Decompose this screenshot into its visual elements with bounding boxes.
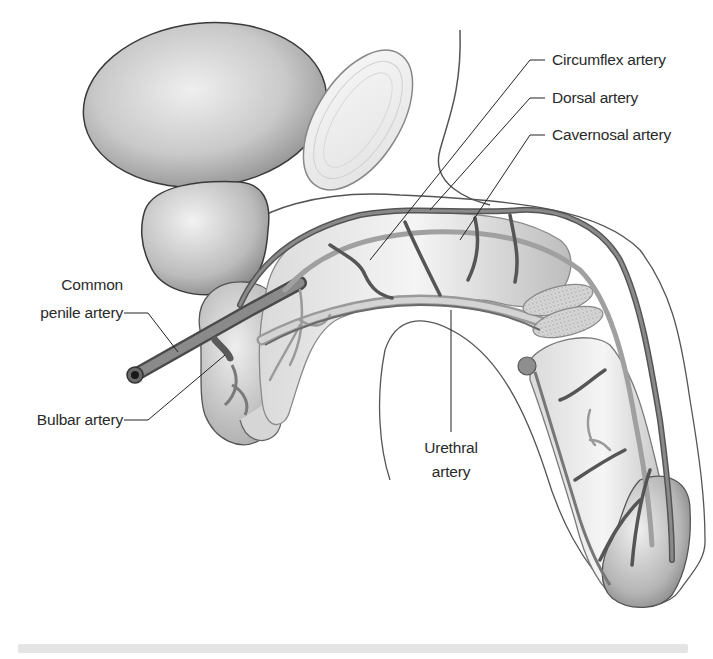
label-bulbar-artery: Bulbar artery	[10, 411, 123, 429]
label-dorsal-artery: Dorsal artery	[552, 89, 638, 107]
cross-section-urethra	[518, 357, 536, 375]
caption-remnant	[0, 636, 713, 659]
prostate	[142, 182, 269, 295]
leader-dorsal	[430, 98, 545, 210]
label-urethral-artery-line2: artery	[411, 463, 491, 481]
label-common-penile-artery-line2: penile artery	[20, 304, 123, 322]
label-urethral-artery-line1: Urethral	[411, 439, 491, 457]
leader-common-penile	[124, 313, 178, 352]
bladder	[75, 11, 335, 200]
label-cavernosal-artery: Cavernosal artery	[552, 126, 671, 144]
label-circumflex-artery: Circumflex artery	[552, 51, 666, 69]
label-common-penile-artery-line1: Common	[40, 276, 123, 294]
body-wall-outline	[438, 30, 490, 205]
